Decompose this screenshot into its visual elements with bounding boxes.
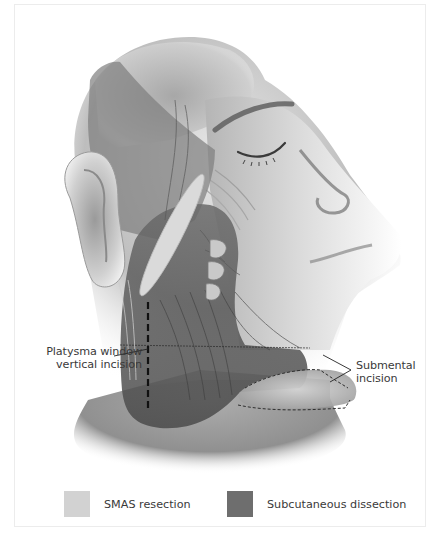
legend-item-subcutaneous-dissection: Subcutaneous dissection xyxy=(227,490,406,518)
legend-label: SMAS resection xyxy=(104,498,191,511)
legend-label: Subcutaneous dissection xyxy=(267,498,406,511)
submental-incision-label: Submental incision xyxy=(356,360,435,385)
legend-item-smas-resection: SMAS resection xyxy=(64,490,191,518)
legend-swatch-subcutaneous xyxy=(227,491,253,517)
platysma-window-label: Platysma window vertical incision xyxy=(24,346,142,371)
label-line: incision xyxy=(356,373,435,386)
legend: SMAS resection Subcutaneous dissection xyxy=(64,490,424,518)
legend-swatch-smas xyxy=(64,491,90,517)
label-line: Platysma window xyxy=(24,346,142,359)
head-neck-illustration xyxy=(0,0,435,534)
label-line: Submental xyxy=(356,360,435,373)
label-line: vertical incision xyxy=(24,359,142,372)
